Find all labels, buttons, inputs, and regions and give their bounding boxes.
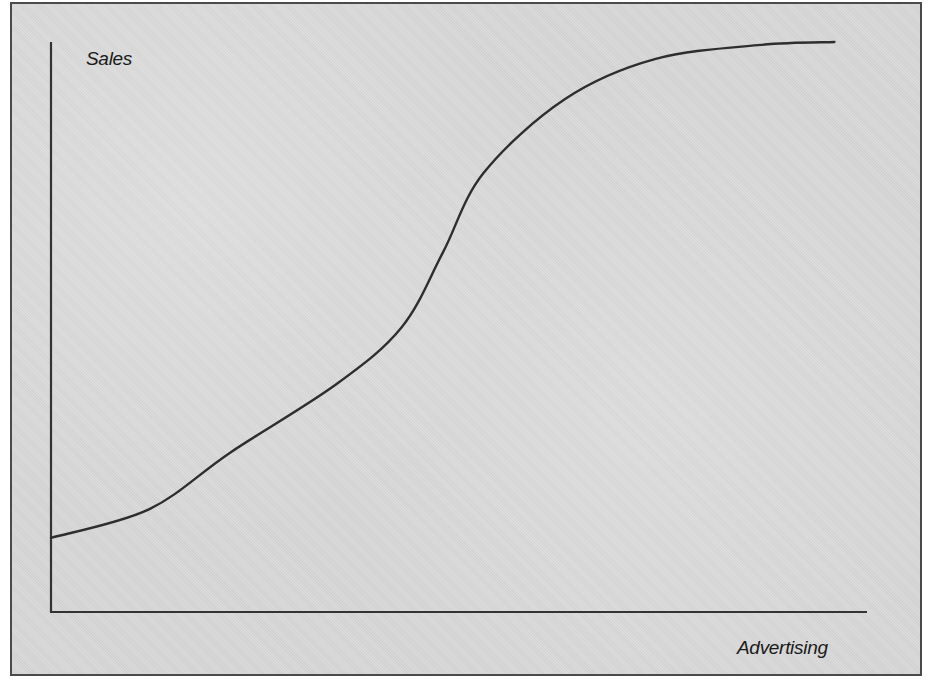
sales-curve (51, 42, 834, 538)
x-axis-label: Advertising (737, 637, 828, 659)
chart-canvas (0, 0, 929, 690)
y-axis-label: Sales (86, 48, 132, 70)
